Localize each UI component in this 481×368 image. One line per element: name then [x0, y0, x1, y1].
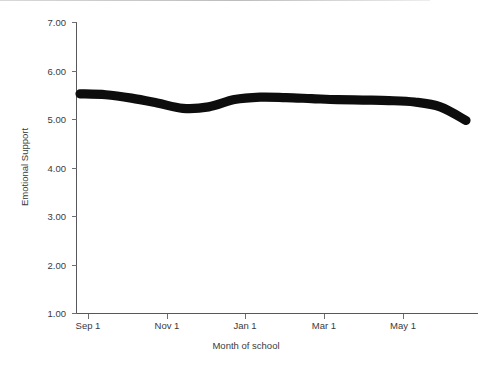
x-tick-label-jan-1: Jan 1 [233, 320, 256, 331]
y-tick-label-3: 3.00 [48, 211, 67, 222]
x-axis-tick-labels: Sep 1 Nov 1 Jan 1 Mar 1 May 1 [76, 320, 416, 331]
y-axis-title: Emotional Support [19, 128, 30, 207]
y-tick-label-7: 7.00 [48, 17, 67, 28]
y-tick-label-4: 4.00 [48, 163, 67, 174]
line-chart: 7.00 6.00 5.00 4.00 3.00 2.00 1.00 Sep 1… [0, 0, 481, 368]
y-tick-label-2: 2.00 [48, 260, 67, 271]
x-axis-ticks [89, 314, 404, 319]
x-tick-label-sep-1: Sep 1 [76, 320, 101, 331]
y-axis-ticks [72, 23, 77, 314]
y-tick-label-5: 5.00 [48, 114, 67, 125]
y-tick-label-6: 6.00 [48, 66, 67, 77]
y-tick-label-1: 1.00 [48, 308, 67, 319]
x-tick-label-nov-1: Nov 1 [155, 320, 180, 331]
chart-figure: 7.00 6.00 5.00 4.00 3.00 2.00 1.00 Sep 1… [0, 0, 481, 368]
chart-axes [77, 22, 479, 314]
x-tick-label-mar-1: Mar 1 [312, 320, 336, 331]
x-axis-title: Month of school [212, 340, 279, 351]
data-line-emotional-support [80, 94, 466, 121]
y-axis-tick-labels: 7.00 6.00 5.00 4.00 3.00 2.00 1.00 [48, 17, 67, 319]
x-tick-label-may-1: May 1 [390, 320, 416, 331]
